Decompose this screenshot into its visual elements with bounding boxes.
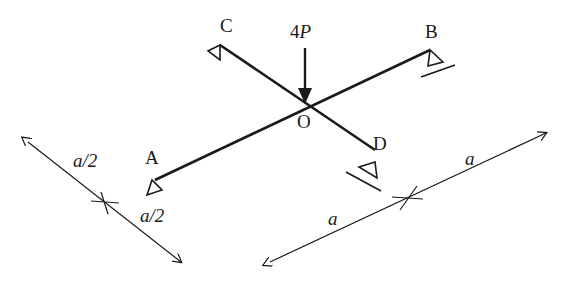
dim-label-left-upper: a/2	[73, 150, 98, 171]
label-a: A	[145, 147, 159, 168]
load-arrow-head-icon	[298, 88, 312, 104]
dim-label-right-lower: a	[328, 208, 338, 229]
support-b-icon	[428, 50, 443, 66]
beam-ab	[155, 50, 430, 180]
dim-label-right-upper: a	[465, 148, 475, 169]
support-c-icon	[208, 45, 220, 60]
ground-b-icon	[421, 65, 455, 77]
dim-label-left-lower: a/2	[140, 205, 165, 226]
ground-d-icon	[346, 172, 381, 191]
label-b: B	[425, 21, 438, 42]
support-a-icon	[147, 180, 162, 195]
label-d: D	[373, 133, 387, 154]
beam-diagram: C B A D O 4P a/2 a/2 a a	[0, 0, 565, 283]
support-d-icon	[359, 162, 377, 178]
beam-cd	[220, 45, 375, 150]
label-o: O	[297, 111, 311, 132]
dim-tick-left-2	[101, 192, 108, 214]
load-label: 4P	[290, 21, 312, 42]
label-c: C	[220, 15, 233, 36]
